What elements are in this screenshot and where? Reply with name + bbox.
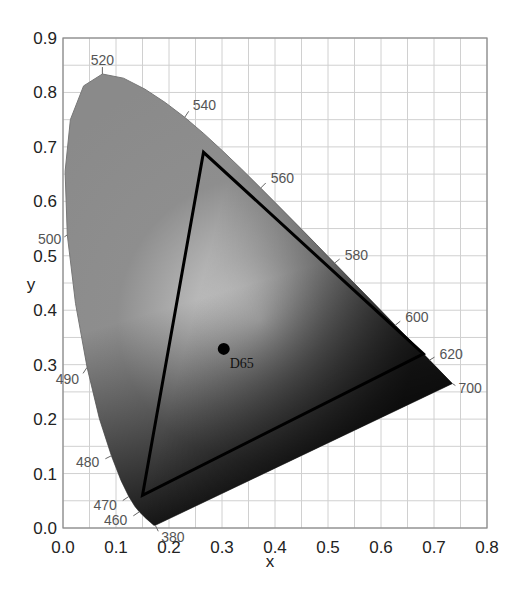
wavelength-label: 700	[458, 380, 482, 396]
wavelength-tick	[105, 456, 111, 459]
wavelength-tick	[452, 384, 455, 386]
y-tick-label: 0.8	[33, 83, 57, 102]
cie-chromaticity-diagram: 520540560580600620700500490480470460380 …	[0, 0, 525, 602]
wavelength-label: 600	[405, 309, 429, 325]
y-tick-label: 0.9	[33, 29, 57, 48]
y-tick-label: 0.1	[33, 465, 57, 484]
x-tick-label: 0.1	[104, 538, 128, 557]
wavelength-tick	[185, 111, 189, 117]
wavelength-label: 540	[193, 97, 217, 113]
y-axis-ticks: 0.00.10.20.30.40.50.60.70.80.9	[33, 29, 57, 538]
x-tick-label: 0.3	[210, 538, 234, 557]
y-tick-label: 0.3	[33, 356, 57, 375]
wavelength-label: 580	[345, 247, 369, 263]
x-tick-label: 0.8	[475, 538, 499, 557]
wavelength-label: 520	[91, 52, 115, 68]
wavelength-tick	[335, 259, 340, 263]
wavelength-label: 500	[38, 231, 62, 247]
y-tick-label: 0.2	[33, 410, 57, 429]
x-tick-label: 0.6	[369, 538, 393, 557]
wavelength-tick	[261, 183, 266, 188]
x-tick-label: 0.7	[422, 538, 446, 557]
wavelength-label: 460	[104, 512, 128, 528]
spectral-locus-shade-right	[65, 74, 452, 525]
wavelength-label: 480	[76, 454, 100, 470]
wavelength-label: 620	[439, 346, 463, 362]
wavelength-tick	[64, 235, 67, 237]
y-axis-title: y	[27, 275, 36, 294]
wavelength-label: 560	[271, 170, 295, 186]
y-tick-label: 0.5	[33, 247, 57, 266]
wavelength-label: 470	[93, 497, 117, 513]
x-tick-label: 0.0	[51, 538, 75, 557]
d65-white-point	[218, 343, 230, 355]
x-tick-label: 0.2	[157, 538, 181, 557]
wavelength-tick	[123, 497, 129, 501]
x-tick-label: 0.5	[316, 538, 340, 557]
d65-label: D65	[230, 356, 254, 371]
wavelength-tick	[83, 367, 87, 373]
wavelength-tick	[133, 512, 139, 516]
y-tick-label: 0.4	[33, 301, 57, 320]
y-tick-label: 0.0	[33, 519, 57, 538]
y-tick-label: 0.7	[33, 138, 57, 157]
x-axis-title: x	[266, 552, 275, 571]
wavelength-tick	[395, 321, 400, 325]
wavelength-label: 490	[56, 371, 80, 387]
x-axis-ticks: 0.00.10.20.30.40.50.60.70.8	[51, 538, 499, 557]
y-tick-label: 0.6	[33, 192, 57, 211]
